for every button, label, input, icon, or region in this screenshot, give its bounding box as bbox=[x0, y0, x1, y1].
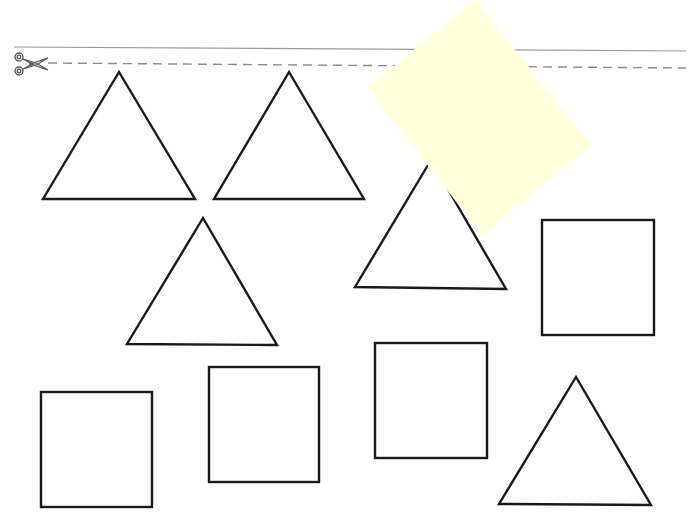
shapes-canvas bbox=[0, 0, 688, 519]
fold-line bbox=[14, 47, 686, 51]
triangle-5 bbox=[499, 377, 651, 505]
triangle-2 bbox=[214, 72, 364, 199]
cut-line bbox=[48, 63, 686, 68]
scissors-icon bbox=[15, 53, 48, 75]
square-2 bbox=[41, 392, 152, 507]
triangle-3 bbox=[127, 218, 277, 345]
square-4 bbox=[375, 343, 487, 458]
square-1 bbox=[542, 220, 654, 335]
worksheet bbox=[0, 0, 688, 519]
squares-group bbox=[41, 220, 654, 507]
square-3 bbox=[209, 367, 319, 482]
sticky-note bbox=[367, 0, 592, 236]
triangle-1 bbox=[43, 72, 195, 199]
